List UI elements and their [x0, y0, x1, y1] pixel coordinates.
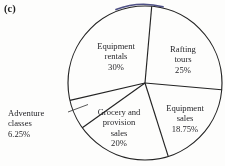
- slice-label-line: Equipment: [80, 41, 152, 51]
- slice-label-line: Grocery and: [85, 107, 153, 117]
- slice-label-line: provision: [85, 117, 153, 127]
- slice-label-line: sales: [152, 113, 218, 123]
- slice-label-grocery-provision-sales: Grocery and provision sales 20%: [85, 107, 153, 148]
- slice-label-equipment-rentals: Equipment rentals 30%: [80, 41, 152, 72]
- slice-label-line: sales: [85, 128, 153, 138]
- figure-panel: (c) Equipment rentals 30% Rafting tours …: [0, 0, 225, 166]
- slice-value-label: 30%: [80, 62, 152, 72]
- slice-divider-rafting-sales: [145, 83, 222, 90]
- slice-value-label: 25%: [155, 65, 211, 75]
- slice-label-line: Equipment: [152, 103, 218, 113]
- slice-value-label: 6.25%: [8, 129, 70, 139]
- slice-label-line: Adventure: [8, 108, 70, 118]
- slice-label-rafting-tours: Rafting tours 25%: [155, 44, 211, 75]
- slice-value-label: 18.75%: [152, 124, 218, 134]
- slice-label-line: tours: [155, 54, 211, 64]
- slice-label-adventure-classes: Adventure classes 6.25%: [8, 108, 70, 139]
- slice-label-equipment-sales: Equipment sales 18.75%: [152, 103, 218, 134]
- slice-value-label: 20%: [85, 138, 153, 148]
- slice-label-line: Rafting: [155, 44, 211, 54]
- slice-label-line: rentals: [80, 51, 152, 61]
- slice-label-line: classes: [8, 118, 70, 128]
